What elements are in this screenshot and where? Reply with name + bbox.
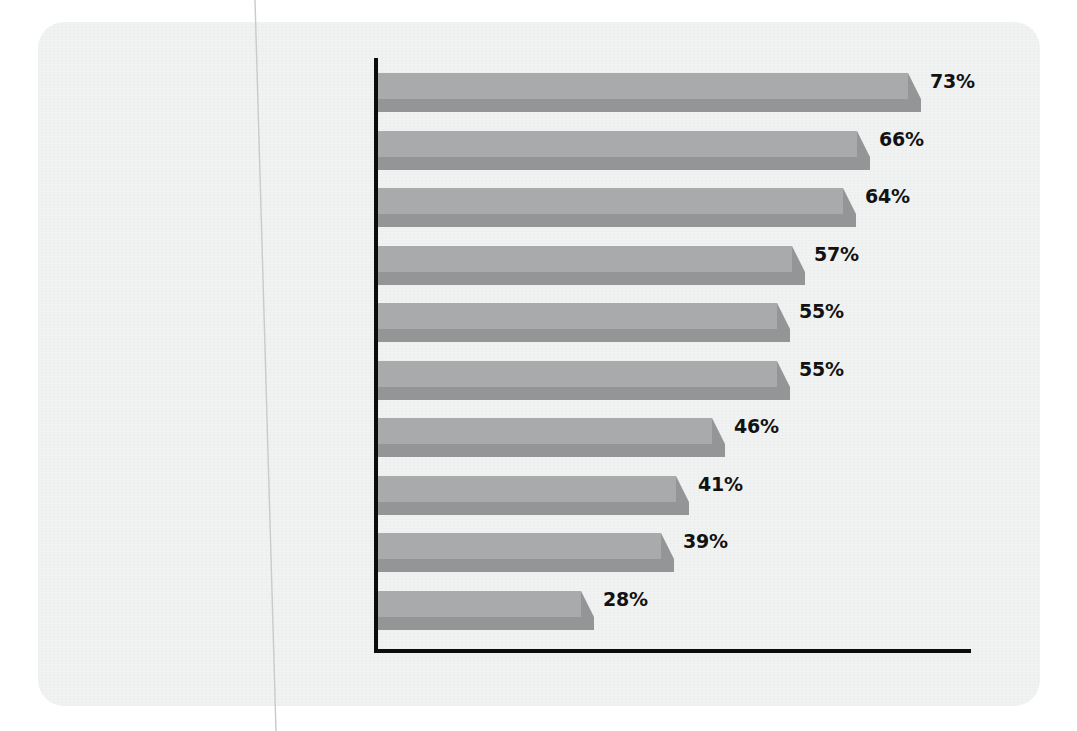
bar-extrusion-cap [857, 131, 870, 170]
bar-top-face [378, 188, 843, 214]
bar-top-face [378, 476, 676, 502]
bar-front-face [378, 329, 790, 342]
bar-extrusion-cap [777, 303, 790, 342]
bar-value-label: 28% [603, 587, 648, 611]
bar [378, 131, 870, 171]
bar-front-face [378, 214, 856, 227]
bar-top-face [378, 533, 661, 559]
bar [378, 533, 674, 573]
x-axis-line [374, 649, 971, 653]
bar [378, 591, 594, 631]
bar-top-face [378, 303, 777, 329]
bar [378, 188, 856, 228]
bar-front-face [378, 559, 674, 572]
bar-top-face [378, 418, 712, 444]
bar-front-face [378, 444, 725, 457]
bar [378, 246, 805, 286]
bar-extrusion-cap [581, 591, 594, 630]
bar-value-label: 73% [930, 69, 975, 93]
bar-extrusion-cap [908, 73, 921, 112]
bar-value-label: 57% [814, 242, 859, 266]
bar-top-face [378, 361, 777, 387]
bar-front-face [378, 502, 689, 515]
bar-value-label: 64% [865, 184, 910, 208]
bar-extrusion-cap [676, 476, 689, 515]
bar-value-label: 46% [734, 414, 779, 438]
bar [378, 418, 725, 458]
bar-extrusion-cap [792, 246, 805, 285]
bar-front-face [378, 272, 805, 285]
bar [378, 476, 689, 516]
bar [378, 303, 790, 343]
bar-extrusion-cap [712, 418, 725, 457]
bar-value-label: 66% [879, 127, 924, 151]
bar [378, 73, 921, 113]
bar-value-label: 41% [698, 472, 743, 496]
chart-page: Viruses and Worms73%Spyware66%Spam64%Out… [0, 0, 1077, 731]
bar-extrusion-cap [777, 361, 790, 400]
plot-area: Viruses and Worms73%Spyware66%Spam64%Out… [0, 0, 1077, 731]
bar [378, 361, 790, 401]
bar-extrusion-cap [843, 188, 856, 227]
bar-top-face [378, 73, 908, 99]
bar-top-face [378, 591, 581, 617]
bar-top-face [378, 131, 857, 157]
bar-front-face [378, 387, 790, 400]
bar-front-face [378, 99, 921, 112]
bar-top-face [378, 246, 792, 272]
bar-value-label: 55% [799, 357, 844, 381]
bar-front-face [378, 157, 870, 170]
bar-extrusion-cap [661, 533, 674, 572]
bar-value-label: 39% [683, 529, 728, 553]
bar-front-face [378, 617, 594, 630]
bar-value-label: 55% [799, 299, 844, 323]
